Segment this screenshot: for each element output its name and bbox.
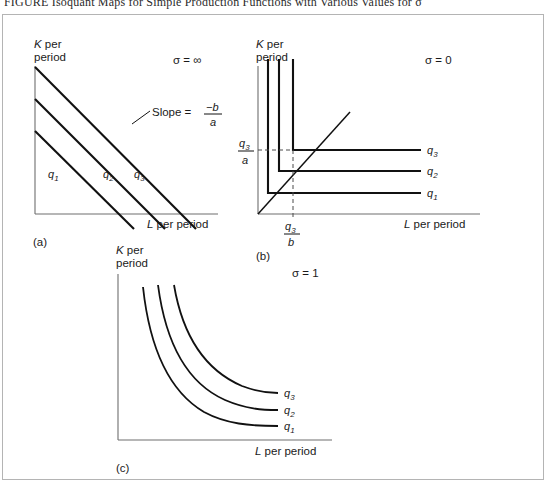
panel-a-x-axis-label: L per period [147,218,208,230]
figure-root: FIGURE Isoquant Maps for Simple Producti… [0,0,546,499]
panel-a-y-axis-label-line1: K per [34,38,62,50]
panel-a-slope-text: Slope = [152,106,192,118]
panel-b-y-tick-numerator: q3 [239,137,250,152]
panel-a-curve-label-q3: q3 [134,168,145,183]
panel-a-y-axis-label-line2: period [34,51,66,63]
panel-c-curve-label-q1: q1 [284,420,295,435]
figure-caption-text: FIGURE Isoquant Maps for Simple Producti… [4,0,422,9]
panel-a-slope-numerator: −b [206,101,219,113]
panel-a-isoquant-q3 [35,67,196,229]
panel-b-isoquant-q3 [293,59,421,150]
panel-a-slope-denominator: a [210,116,216,128]
panel-a-slope-annotation-label: Slope = [152,106,192,118]
panel-c-x-axis-label: L per period [255,445,316,457]
panel-c-isoquant-q1 [143,287,278,426]
panel-b-x-tick-numerator: q3 [285,220,296,235]
panel-b-curve-label-q2: q2 [427,165,438,180]
panel-b-y-tick-denominator: a [242,154,248,166]
panel-b-isoquant-q2 [279,59,421,171]
panel-a-tag: (a) [33,236,47,248]
panel-c-sigma-label: σ = 1 [292,267,319,279]
panel-b-curve-label-q1: q1 [427,187,438,202]
panel-b-y-axis-label-line2: period [256,51,288,63]
panel-a-isoquant-q2 [35,99,165,229]
figure-top-caption: FIGURE Isoquant Maps for Simple Producti… [0,0,546,12]
panel-a-chart: K per period Slope = −b a q1 q2 q3 σ = ∞… [10,34,270,244]
panel-a-slope-leader-line [132,111,150,124]
panel-c-curve-label-q3: q3 [284,387,295,402]
panel-a-curve-label-q2: q2 [103,168,114,183]
panel-c-tag: (c) [116,462,130,474]
panel-b-isoquant-q1 [268,59,421,193]
panel-c-curve-label-q2: q2 [284,404,295,419]
panel-c-y-axis-label-line2: period [116,257,148,269]
panel-c-y-axis-label-line1: K per [116,244,144,256]
panel-b-chart: K per period q3 a q3 b q3 q2 q1 σ = 0 [232,34,532,244]
panel-b-y-axis-label-line1: K per [256,38,284,50]
panel-b-curve-label-q3: q3 [427,144,438,159]
panel-b-x-axis-label: L per period [404,218,465,230]
panel-c-chart: K per period q3 q2 q1 σ = 1 L per period… [92,240,392,475]
panel-a-curve-label-q1: q1 [48,168,59,183]
panel-b-expansion-ray [258,112,350,214]
panel-b-sigma-label: σ = 0 [425,54,452,66]
panel-a-sigma-label: σ = ∞ [173,54,201,66]
panel-c-isoquant-q3 [174,285,278,393]
